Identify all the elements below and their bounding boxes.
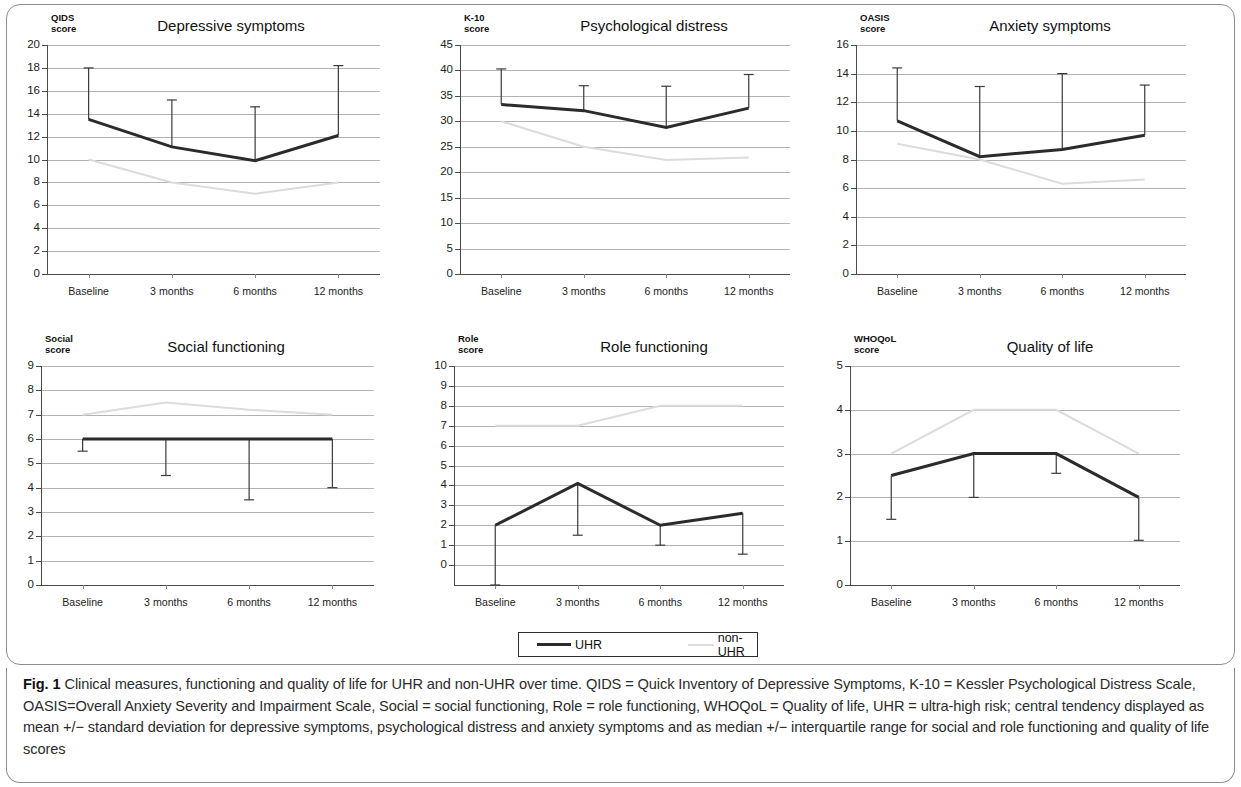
chart-title: Quality of life bbox=[900, 338, 1200, 355]
y-tick-label: 1 bbox=[824, 535, 843, 546]
y-tick-label: 30 bbox=[428, 115, 453, 126]
y-tick-label: 2 bbox=[15, 530, 34, 541]
figure-panel: QIDS scoreDepressive symptoms02468101214… bbox=[6, 4, 1235, 665]
y-tick-label: 4 bbox=[15, 222, 40, 233]
y-tick-label: 3 bbox=[824, 448, 843, 459]
y-axis-caption: QIDS score bbox=[51, 13, 76, 34]
error-bar bbox=[1140, 85, 1150, 135]
series-layer bbox=[454, 366, 784, 587]
series-layer bbox=[850, 366, 1180, 587]
error-bar bbox=[573, 483, 583, 535]
y-tick-label: 12 bbox=[824, 96, 849, 107]
y-tick-label: 0 bbox=[428, 559, 447, 570]
y-tick-label: 8 bbox=[15, 176, 40, 187]
y-tick-label: 45 bbox=[428, 39, 453, 50]
legend-label-uhr: UHR bbox=[575, 638, 602, 652]
series-layer bbox=[41, 366, 374, 587]
y-tick-label: 40 bbox=[428, 64, 453, 75]
chart-title: Depressive symptoms bbox=[81, 17, 381, 34]
y-tick-label: 10 bbox=[824, 125, 849, 136]
y-tick-label: 1 bbox=[15, 555, 34, 566]
chart-quality-of-life: WHOQoL scoreQuality of life012345Baselin… bbox=[830, 332, 1194, 619]
y-tick-label: 4 bbox=[824, 404, 843, 415]
y-tick-label: 3 bbox=[15, 506, 34, 517]
legend-entry-uhr: UHR bbox=[537, 638, 602, 652]
plot-area: 012345Baseline3 months6 months12 months bbox=[850, 366, 1180, 585]
error-bar bbox=[738, 513, 748, 554]
plot-area: 012345678910Baseline3 months6 months12 m… bbox=[454, 366, 784, 585]
error-bar bbox=[579, 86, 589, 111]
legend-label-non-uhr: non-UHR bbox=[718, 631, 757, 659]
y-tick-label: 12 bbox=[15, 131, 40, 142]
series-line-non-uhr bbox=[501, 121, 749, 160]
figure-page: QIDS scoreDepressive symptoms02468101214… bbox=[0, 0, 1241, 787]
y-axis-caption: K-10 score bbox=[464, 13, 489, 34]
y-tick-label: 20 bbox=[428, 166, 453, 177]
x-tick-label: 12 months bbox=[1095, 286, 1195, 297]
error-bar bbox=[78, 439, 88, 451]
error-bar bbox=[167, 100, 177, 147]
y-tick-label: 6 bbox=[428, 440, 447, 451]
series-line-uhr bbox=[501, 105, 749, 128]
error-bar bbox=[969, 454, 979, 498]
y-tick-label: 0 bbox=[15, 579, 34, 590]
error-bar bbox=[1134, 497, 1144, 540]
plot-area: 02468101214161820Baseline3 months6 month… bbox=[47, 45, 380, 274]
chart-title: Role functioning bbox=[504, 338, 804, 355]
y-tick-label: 2 bbox=[824, 491, 843, 502]
series-line-uhr bbox=[891, 454, 1139, 498]
series-line-non-uhr bbox=[897, 144, 1145, 184]
y-tick-label: 16 bbox=[824, 39, 849, 50]
y-tick-label: 9 bbox=[15, 360, 34, 371]
y-tick-label: 5 bbox=[824, 360, 843, 371]
series-layer bbox=[460, 45, 790, 276]
chart-social-functioning: Social scoreSocial functioning0123456789… bbox=[21, 332, 388, 619]
chart-depressive-symptoms: QIDS scoreDepressive symptoms02468101214… bbox=[21, 11, 394, 308]
y-tick-label: 0 bbox=[824, 268, 849, 279]
y-tick-label: 35 bbox=[428, 90, 453, 101]
error-bar bbox=[327, 439, 337, 488]
x-tick-label: 12 months bbox=[1089, 597, 1189, 608]
error-bar bbox=[975, 87, 985, 157]
y-tick-label: 4 bbox=[15, 482, 34, 493]
y-tick-label: 0 bbox=[428, 268, 453, 279]
non-uhr-line-swatch-icon bbox=[688, 644, 714, 646]
x-tick-label: 12 months bbox=[693, 597, 793, 608]
y-tick-label: 14 bbox=[824, 68, 849, 79]
x-tick-label: 12 months bbox=[699, 286, 799, 297]
chart-psychological-distress: K-10 scorePsychological distress05101520… bbox=[434, 11, 804, 308]
y-tick-label: 10 bbox=[15, 154, 40, 165]
y-tick-label: 2 bbox=[824, 239, 849, 250]
y-tick-label: 10 bbox=[428, 360, 447, 371]
error-bar bbox=[886, 476, 896, 520]
figure-caption: Fig. 1 Clinical measures, functioning an… bbox=[23, 674, 1221, 760]
error-bar bbox=[84, 68, 94, 120]
y-axis-caption: WHOQoL score bbox=[854, 334, 896, 355]
y-tick-label: 2 bbox=[428, 519, 447, 530]
plot-area: 051015202530354045Baseline3 months6 mont… bbox=[460, 45, 790, 274]
error-bar bbox=[161, 439, 171, 476]
error-bar bbox=[744, 75, 754, 109]
y-tick-label: 4 bbox=[428, 479, 447, 490]
y-tick-label: 6 bbox=[15, 433, 34, 444]
chart-anxiety-symptoms: OASIS scoreAnxiety symptoms0246810121416… bbox=[830, 11, 1200, 308]
y-tick-label: 8 bbox=[824, 154, 849, 165]
error-bar bbox=[661, 86, 671, 127]
y-tick-label: 5 bbox=[15, 457, 34, 468]
y-tick-label: 5 bbox=[428, 243, 453, 254]
series-line-non-uhr bbox=[495, 406, 743, 426]
y-tick-label: 0 bbox=[15, 268, 40, 279]
chart-role-functioning: Role scoreRole functioning012345678910Ba… bbox=[434, 332, 798, 619]
error-bar bbox=[333, 66, 343, 136]
y-axis-caption: Social score bbox=[45, 334, 73, 355]
figure-number: Fig. 1 bbox=[23, 676, 61, 692]
y-tick-label: 6 bbox=[824, 182, 849, 193]
x-tick-label: 12 months bbox=[282, 597, 382, 608]
y-tick-label: 10 bbox=[428, 217, 453, 228]
y-tick-label: 8 bbox=[428, 400, 447, 411]
y-axis-caption: Role score bbox=[458, 334, 483, 355]
series-line-non-uhr bbox=[89, 160, 339, 194]
y-tick-label: 4 bbox=[824, 211, 849, 222]
y-tick-label: 6 bbox=[15, 199, 40, 210]
error-bar bbox=[244, 439, 254, 500]
